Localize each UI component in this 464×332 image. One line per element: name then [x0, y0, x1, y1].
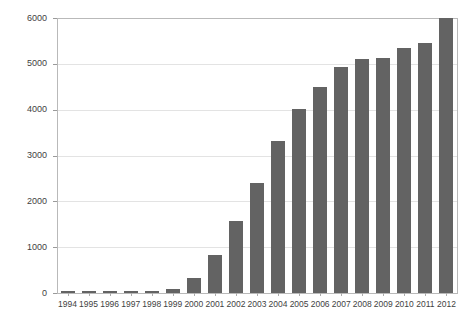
x-tick-mark-2002 [236, 293, 237, 296]
bar-2010 [397, 48, 411, 293]
x-tick-label-2003: 2003 [246, 299, 267, 309]
bar-2003 [250, 183, 264, 293]
x-tick-label-2001: 2001 [204, 299, 225, 309]
x-tick-mark-2000 [194, 293, 195, 296]
bar-2000 [187, 278, 201, 293]
x-tick-mark-2009 [383, 293, 384, 296]
x-axis-labels: 1994199519961997199819992000200120022003… [57, 299, 457, 319]
y-tick-label-3000: 3000 [27, 151, 47, 160]
x-tick-label-2012: 2012 [436, 299, 457, 309]
x-tick-label-1996: 1996 [99, 299, 120, 309]
bar-2001 [208, 255, 222, 293]
x-tick-mark-2011 [425, 293, 426, 296]
x-tick-label-1998: 1998 [141, 299, 162, 309]
x-tick-label-2005: 2005 [289, 299, 310, 309]
x-tick-label-1997: 1997 [120, 299, 141, 309]
bars-container [57, 18, 457, 294]
x-tick-label-2011: 2011 [415, 299, 436, 309]
y-tick-label-0: 0 [42, 289, 47, 298]
bar-2008 [355, 59, 369, 293]
plot-right-border [457, 18, 458, 294]
y-tick-label-1000: 1000 [27, 243, 47, 252]
x-tick-label-1995: 1995 [78, 299, 99, 309]
x-tick-label-2008: 2008 [352, 299, 373, 309]
x-tick-label-2009: 2009 [373, 299, 394, 309]
y-axis-labels: 6000 5000 4000 3000 2000 1000 0 [0, 0, 57, 332]
x-tick-label-2007: 2007 [331, 299, 352, 309]
x-tick-label-2000: 2000 [183, 299, 204, 309]
x-tick-mark-2010 [404, 293, 405, 296]
x-tick-label-2010: 2010 [394, 299, 415, 309]
x-tick-label-1994: 1994 [57, 299, 78, 309]
y-tick-label-4000: 4000 [27, 105, 47, 114]
bar-2009 [376, 58, 390, 293]
x-tick-mark-2003 [257, 293, 258, 296]
x-tick-mark-2008 [362, 293, 363, 296]
x-tick-mark-2007 [341, 293, 342, 296]
x-tick-mark-2004 [278, 293, 279, 296]
x-tick-mark-2006 [320, 293, 321, 296]
x-tick-mark-1994 [68, 293, 69, 296]
bar-2006 [313, 87, 327, 293]
x-tick-label-2002: 2002 [225, 299, 246, 309]
x-tick-mark-2005 [299, 293, 300, 296]
bar-2007 [334, 67, 348, 293]
x-tick-mark-1995 [89, 293, 90, 296]
x-tick-mark-2001 [215, 293, 216, 296]
bar-2012 [439, 18, 453, 293]
bar-2004 [271, 141, 285, 293]
y-tick-label-5000: 5000 [27, 59, 47, 68]
x-tick-mark-2012 [446, 293, 447, 296]
y-tick-label-2000: 2000 [27, 197, 47, 206]
x-tick-label-2006: 2006 [310, 299, 331, 309]
bar-2005 [292, 109, 306, 293]
x-tick-mark-1996 [110, 293, 111, 296]
bar-chart: 6000 5000 4000 3000 2000 1000 0 19941995… [0, 0, 464, 332]
x-tick-label-2004: 2004 [268, 299, 289, 309]
bar-2002 [229, 221, 243, 293]
x-tick-label-1999: 1999 [162, 299, 183, 309]
x-tick-mark-1997 [131, 293, 132, 296]
y-tick-label-6000: 6000 [27, 14, 47, 23]
bar-2011 [418, 43, 432, 293]
x-tick-mark-1999 [173, 293, 174, 296]
x-tick-mark-1998 [152, 293, 153, 296]
